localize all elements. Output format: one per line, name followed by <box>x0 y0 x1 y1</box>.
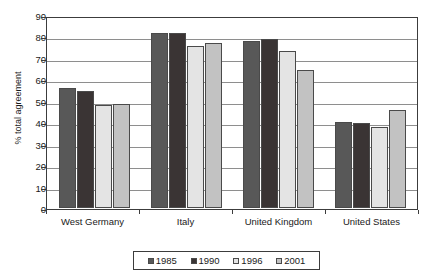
bar-1996-united-kingdom[interactable] <box>279 51 296 208</box>
x-tick-mark <box>139 210 140 214</box>
bar-1996-italy[interactable] <box>187 46 204 208</box>
legend-label: 1985 <box>156 255 177 266</box>
x-axis-label-west-germany: West Germany <box>46 216 139 227</box>
x-axis-label-united-states: United States <box>325 216 418 227</box>
legend-item-1985[interactable]: 1985 <box>148 255 177 266</box>
bar-1996-united-states[interactable] <box>371 127 388 208</box>
plot-area <box>46 17 418 210</box>
legend-item-1990[interactable]: 1990 <box>191 255 220 266</box>
legend-swatch-icon <box>148 258 154 264</box>
y-axis-ticks: 0102030405060708090 <box>0 17 46 210</box>
bar-1990-italy[interactable] <box>169 33 186 208</box>
bar-1990-united-kingdom[interactable] <box>261 39 278 208</box>
bar-1996-west-germany[interactable] <box>95 105 112 208</box>
x-tick-mark <box>418 210 419 214</box>
x-axis-label-italy: Italy <box>139 216 232 227</box>
x-tick-mark <box>46 210 47 214</box>
bar-group <box>232 19 324 208</box>
bar-chart-figure: % total agreement 0102030405060708090 We… <box>0 0 432 280</box>
bar-1985-italy[interactable] <box>151 33 168 208</box>
bar-1985-united-states[interactable] <box>335 122 352 208</box>
bar-1990-west-germany[interactable] <box>77 91 94 208</box>
legend-item-1996[interactable]: 1996 <box>233 255 262 266</box>
bar-1985-united-kingdom[interactable] <box>243 41 260 208</box>
chart-legend: 1985199019962001 <box>133 251 320 270</box>
bar-2001-italy[interactable] <box>205 43 222 208</box>
bar-group <box>140 19 232 208</box>
legend-swatch-icon <box>191 258 197 264</box>
bar-groups <box>48 19 416 208</box>
x-axis-label-united-kingdom: United Kingdom <box>232 216 325 227</box>
bar-1985-west-germany[interactable] <box>59 88 76 208</box>
bar-group <box>48 19 140 208</box>
legend-label: 1996 <box>241 255 262 266</box>
bar-group <box>324 19 416 208</box>
x-tick-mark <box>325 210 326 214</box>
x-tick-mark <box>232 210 233 214</box>
legend-label: 1990 <box>199 255 220 266</box>
x-axis-labels: West GermanyItalyUnited KingdomUnited St… <box>46 216 418 227</box>
legend-swatch-icon <box>276 258 282 264</box>
legend-item-2001[interactable]: 2001 <box>276 255 305 266</box>
bar-2001-united-kingdom[interactable] <box>297 70 314 208</box>
bar-2001-west-germany[interactable] <box>113 104 130 208</box>
legend-swatch-icon <box>233 258 239 264</box>
bar-2001-united-states[interactable] <box>389 110 406 208</box>
legend-label: 2001 <box>284 255 305 266</box>
bar-1990-united-states[interactable] <box>353 123 370 208</box>
